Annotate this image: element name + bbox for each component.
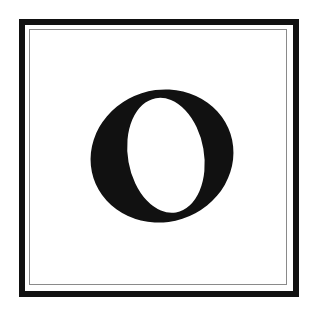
letter-o-glyph bbox=[0, 0, 317, 312]
